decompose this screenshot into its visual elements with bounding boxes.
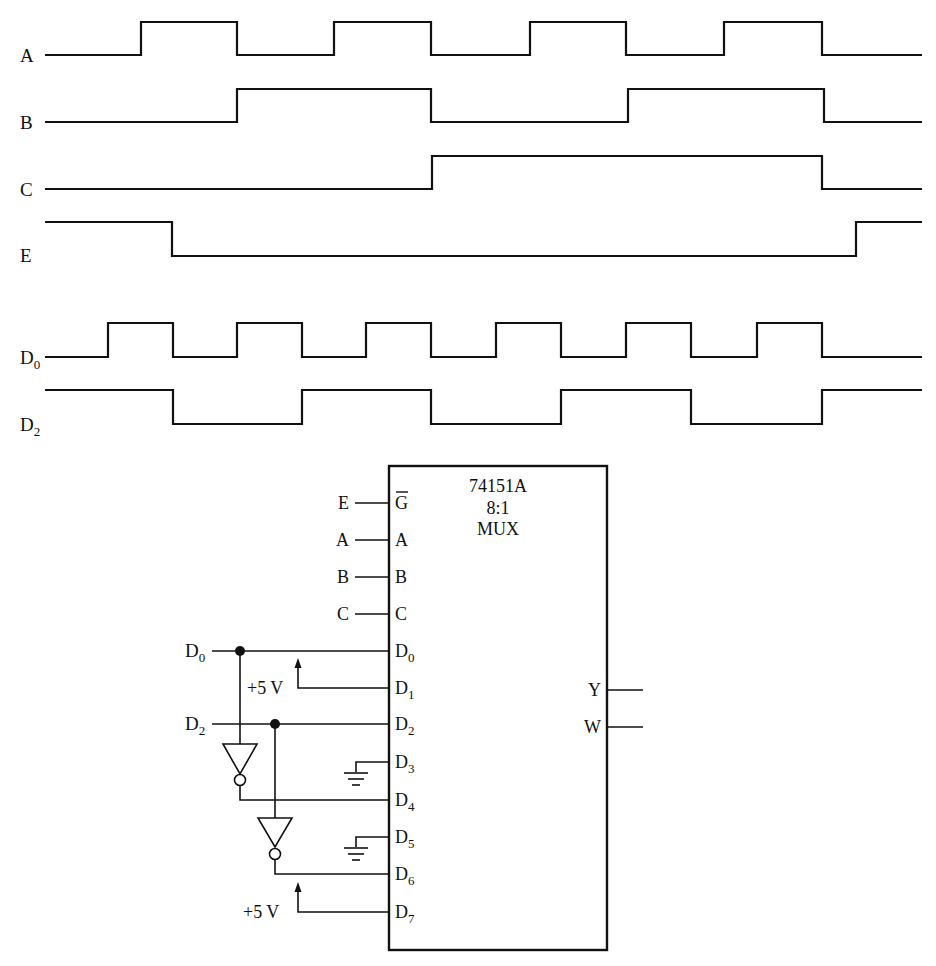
waveform-b: B xyxy=(20,89,922,133)
timing-diagram: ABCED0D2 xyxy=(20,22,922,439)
signal-label: D0 xyxy=(20,347,40,372)
waveform-trace xyxy=(45,323,922,357)
inverter-d2 xyxy=(258,818,389,874)
pin-label: C xyxy=(395,604,407,624)
pin-label: A xyxy=(395,530,408,550)
signal-label: C xyxy=(20,179,33,200)
supply-arrow-icon xyxy=(295,658,302,668)
inverter-triangle-icon xyxy=(223,744,257,774)
signal-label: A xyxy=(20,45,34,66)
waveform-trace xyxy=(45,22,922,55)
output-y: Y xyxy=(588,680,643,700)
chip-ratio: 8:1 xyxy=(486,498,509,518)
d5-ground xyxy=(344,837,389,860)
output-label: W xyxy=(584,717,601,737)
pin-label: G xyxy=(395,493,408,513)
chip-part-number: 74151A xyxy=(469,476,527,496)
supply-label-d1: +5 V xyxy=(247,678,283,698)
control-input-label: E xyxy=(338,493,349,513)
inverter-bubble-icon xyxy=(235,775,246,786)
d1-supply-wire xyxy=(298,664,389,688)
timing-and-circuit-figure: ABCED0D2 74151A 8:1 MUX EGAABBCC D0D1D2D… xyxy=(0,0,936,966)
ground-icon xyxy=(344,773,368,785)
d7-supply-wire xyxy=(298,888,389,912)
supply-arrow-icon xyxy=(295,882,302,892)
supply-label-d7: +5 V xyxy=(243,902,279,922)
d0-input-label: D0 xyxy=(185,640,205,665)
inverter-triangle-icon xyxy=(258,818,292,847)
d3-ground-wire xyxy=(356,762,389,772)
d0-input-net: D0 xyxy=(185,640,389,744)
d2-input-net: D2 xyxy=(185,713,389,818)
ground-icon xyxy=(344,848,368,860)
control-pin-a: AA xyxy=(336,530,408,550)
waveform-e: E xyxy=(20,222,922,266)
not-d0-to-d4-wire xyxy=(240,786,389,800)
output-label: Y xyxy=(588,680,601,700)
d1-pullup: +5 V xyxy=(247,658,389,698)
waveform-trace xyxy=(45,390,922,424)
signal-label: B xyxy=(20,112,33,133)
output-w: W xyxy=(584,717,643,737)
chip-type: MUX xyxy=(477,519,519,539)
signal-label: E xyxy=(20,245,32,266)
control-pin-b: BB xyxy=(337,567,407,587)
d7-pullup: +5 V xyxy=(243,882,389,922)
control-pin-g: EG xyxy=(338,492,408,513)
waveform-d0: D0 xyxy=(20,323,922,372)
waveform-trace xyxy=(45,89,922,122)
waveform-a: A xyxy=(20,22,922,66)
signal-label: D2 xyxy=(20,414,40,439)
inverter-bubble-icon xyxy=(270,849,281,860)
waveform-trace xyxy=(45,156,922,189)
control-input-label: B xyxy=(337,567,349,587)
d3-ground xyxy=(344,762,389,785)
waveform-d2: D2 xyxy=(20,390,922,439)
d5-ground-wire xyxy=(356,837,389,847)
d2-input-label: D2 xyxy=(185,713,205,738)
inverter-d0 xyxy=(223,744,389,800)
mux-circuit: 74151A 8:1 MUX EGAABBCC D0D1D2D3D4D5D6D7… xyxy=(185,466,643,950)
waveform-trace xyxy=(45,222,922,256)
control-pin-c: CC xyxy=(337,604,407,624)
waveform-c: C xyxy=(20,156,922,200)
pin-label: B xyxy=(395,567,407,587)
figure: ABCED0D2 74151A 8:1 MUX EGAABBCC D0D1D2D… xyxy=(0,0,936,966)
not-d2-to-d6-wire xyxy=(275,860,389,874)
control-input-label: A xyxy=(336,530,349,550)
control-input-label: C xyxy=(337,604,349,624)
